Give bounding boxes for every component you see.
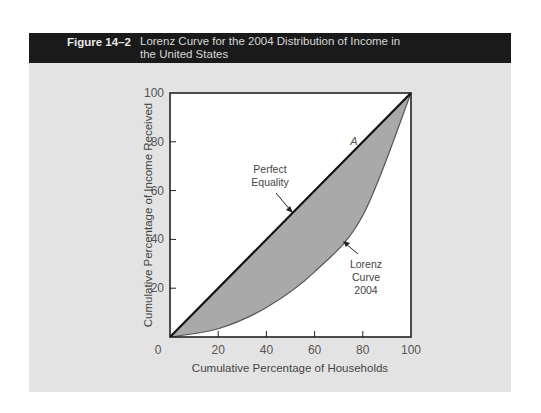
x-tick-label: 100 [401,343,421,357]
x-tick-label: 60 [308,343,322,357]
perfect-equality-label-line1: Perfect [253,163,286,175]
lorenz-label-line3: 2004 [354,284,378,296]
lorenz-chart: 020406080100 20406080100 Cumulative Perc… [0,0,541,413]
lorenz-label-line2: Curve [352,271,380,283]
x-tick-label: 80 [356,343,370,357]
x-tick-label: 40 [260,343,274,357]
x-tick-label: 0 [155,343,162,357]
x-tick-label: 20 [212,343,226,357]
y-tick-label: 100 [144,86,164,100]
x-tick-labels: 020406080100 [155,343,422,357]
y-axis-title: Cumulative Percentage of Income Received [142,103,154,327]
x-axis-title: Cumulative Percentage of Households [192,362,389,374]
perfect-equality-label-line2: Equality [251,176,289,188]
lorenz-label-line1: Lorenz [350,258,382,270]
point-a-label: A [349,135,357,147]
